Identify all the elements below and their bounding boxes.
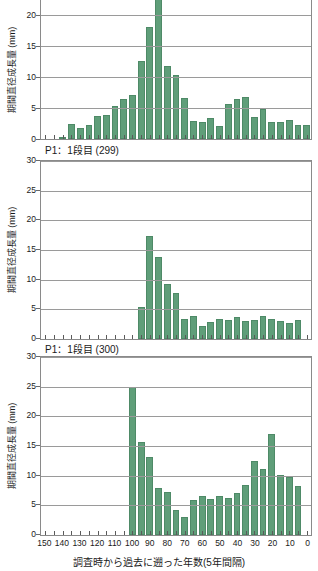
x-tick-mark [132,531,133,535]
x-tick-label: 110 [108,538,122,548]
x-tick-mark [89,531,90,535]
bar [207,499,214,535]
bar [164,284,171,339]
y-tick-mark [36,219,40,220]
x-tick-mark [150,335,151,339]
x-tick-mark [307,335,308,339]
gridline [41,161,311,162]
bar [146,457,153,535]
y-tick-label: 25 [0,186,36,195]
x-tick-mark [124,531,125,535]
multi-panel-bar-chart-figure: 期間直径成長量 (mm) 05101520 P1：1段目 (299) 期間直径成… [0,0,318,571]
y-tick-label: 0 [0,334,36,343]
x-tick-mark [167,531,168,535]
bar [120,99,127,139]
x-tick-label: 140 [55,538,69,548]
x-tick-label: 100 [125,538,139,548]
x-tick-mark [159,135,160,139]
x-tick-mark [141,335,142,339]
y-tick-mark [36,139,40,140]
y-tick-mark [36,46,40,47]
x-tick-mark [159,531,160,535]
x-tick-label: 0 [305,538,310,548]
gridline [41,77,311,78]
x-tick-mark [167,135,168,139]
x-tick-mark [220,135,221,139]
y-tick-mark [36,504,40,505]
y-tick-label: 10 [0,275,36,284]
y-tick-label: 10 [0,471,36,480]
x-tick-mark [246,335,247,339]
bar [129,95,136,139]
x-tick-label: 80 [162,538,171,548]
bar [216,496,223,535]
y-tick-mark [36,77,40,78]
x-tick-mark [63,335,64,339]
x-tick-mark [289,531,290,535]
panel-caption-0: P1：1段目 (299) [45,142,119,157]
gridline [41,250,311,251]
x-tick-mark [124,335,125,339]
x-tick-mark [272,531,273,535]
y-tick-label: 15 [0,42,36,51]
x-axis-tick-labels: 1501401301201101009080706050403020100 [40,538,312,550]
bar [181,98,188,139]
y-tick-label: 10 [0,73,36,82]
x-tick-mark [167,335,168,339]
y-tick-mark [36,15,40,16]
x-tick-mark [98,335,99,339]
x-tick-mark [289,135,290,139]
y-tick-mark [36,160,40,161]
chart-panel-0: 期間直径成長量 (mm) 05101520 [0,0,318,140]
x-tick-mark [211,335,212,339]
x-tick-mark [141,135,142,139]
x-tick-mark [115,531,116,535]
x-tick-mark [54,335,55,339]
bar [155,488,162,535]
y-tick-label: 30 [0,352,36,361]
chart-panel-2: 期間直径成長量 (mm) 051015202530 [0,356,318,536]
x-tick-mark [63,135,64,139]
bar [164,492,171,535]
x-tick-mark [220,531,221,535]
bar [295,486,302,535]
bar [146,236,153,339]
x-tick-mark [54,135,55,139]
bar [155,0,162,139]
gridline [41,387,311,388]
y-tick-label: 20 [0,11,36,20]
bar [225,498,232,535]
y-tick-label: 5 [0,304,36,313]
plot-area-2 [40,356,312,536]
x-tick-mark [150,135,151,139]
y-tick-mark [36,338,40,339]
y-tick-mark [36,279,40,280]
x-tick-mark [193,135,194,139]
gridline [41,46,311,47]
y-tick-label: 20 [0,215,36,224]
x-tick-mark [89,335,90,339]
x-tick-label: 60 [198,538,207,548]
bar [242,97,249,139]
y-tick-mark [36,475,40,476]
gridline [41,15,311,16]
x-tick-mark [71,531,72,535]
bar [268,434,275,535]
y-tick-mark [36,249,40,250]
x-tick-mark [124,135,125,139]
gridline [41,309,311,310]
x-tick-mark [80,531,81,535]
plot-area-1 [40,160,312,340]
y-tick-mark [36,108,40,109]
x-tick-mark [211,531,212,535]
bar [234,493,241,535]
x-tick-mark [228,335,229,339]
x-tick-mark [115,335,116,339]
x-tick-mark [45,135,46,139]
gridline [41,191,311,192]
y-axis-title-wrap-0: 期間直径成長量 (mm) [11,0,12,140]
x-tick-mark [254,531,255,535]
gridline [41,416,311,417]
x-tick-mark [202,531,203,535]
x-tick-mark [71,135,72,139]
